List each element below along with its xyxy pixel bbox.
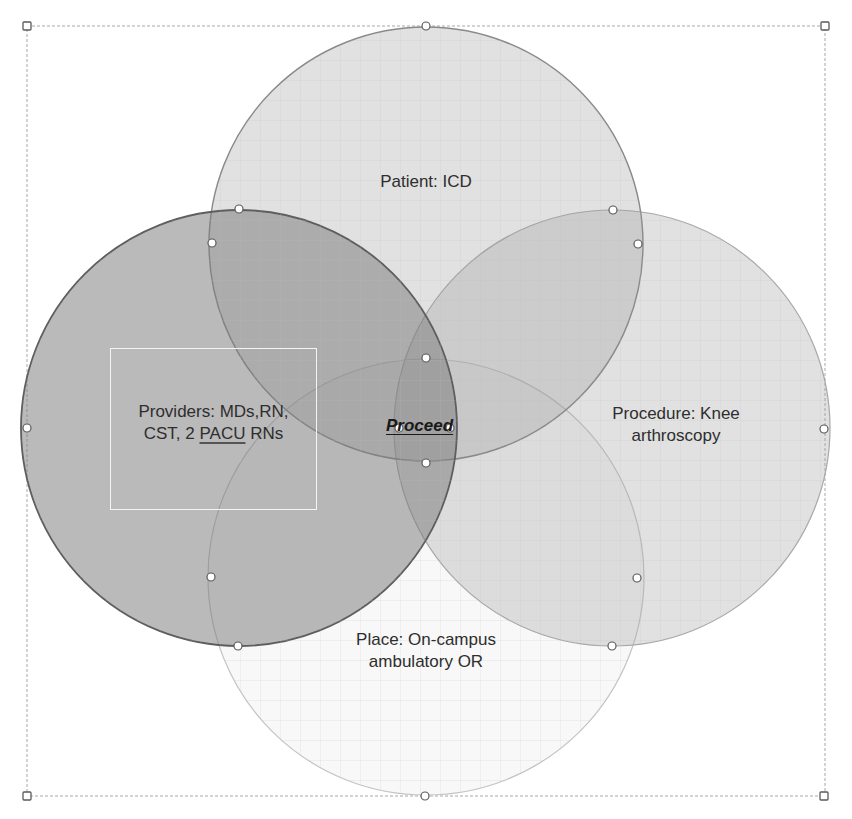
- handle-place-right[interactable]: [633, 574, 641, 582]
- patient-label: Patient: ICD: [326, 171, 526, 193]
- place-label-line1: Place: On-campus: [326, 629, 526, 651]
- spellcheck-flagged-word[interactable]: PACU: [199, 424, 245, 443]
- patient-label-text: Patient: ICD: [326, 171, 526, 193]
- handle-left[interactable]: [23, 424, 31, 432]
- procedure-label: Procedure: Knee arthroscopy: [576, 403, 776, 447]
- handle-patient-right[interactable]: [634, 240, 642, 248]
- handle-procedure-bottom[interactable]: [608, 642, 616, 650]
- providers-label-line1: Providers: MDs,RN,: [110, 401, 317, 423]
- resize-handle-top-right[interactable]: [821, 22, 829, 30]
- resize-handle-top-left[interactable]: [23, 22, 31, 30]
- handle-bottom[interactable]: [421, 792, 429, 800]
- providers-label-line2-post: RNs: [245, 424, 283, 443]
- handle-patient-left[interactable]: [208, 239, 216, 247]
- handle-patient-bottom[interactable]: [422, 459, 430, 467]
- handle-place-top[interactable]: [422, 354, 430, 362]
- handle-top[interactable]: [422, 22, 430, 30]
- resize-handle-bottom-left[interactable]: [23, 792, 31, 800]
- resize-handle-bottom-right[interactable]: [820, 792, 828, 800]
- providers-label-line2: CST, 2 PACU RNs: [110, 423, 317, 445]
- procedure-label-line1: Procedure: Knee: [576, 403, 776, 425]
- center-label-proceed[interactable]: Proceed: [386, 416, 453, 436]
- place-label: Place: On-campus ambulatory OR: [326, 629, 526, 673]
- handle-procedure-top[interactable]: [609, 206, 617, 214]
- handle-right[interactable]: [820, 425, 828, 433]
- handle-place-left[interactable]: [207, 573, 215, 581]
- place-label-line2: ambulatory OR: [326, 651, 526, 673]
- handle-providers-bottom[interactable]: [234, 642, 242, 650]
- providers-label: Providers: MDs,RN, CST, 2 PACU RNs: [110, 401, 317, 445]
- handle-providers-top[interactable]: [235, 205, 243, 213]
- providers-label-line2-pre: CST, 2: [144, 424, 200, 443]
- procedure-label-line2: arthroscopy: [576, 425, 776, 447]
